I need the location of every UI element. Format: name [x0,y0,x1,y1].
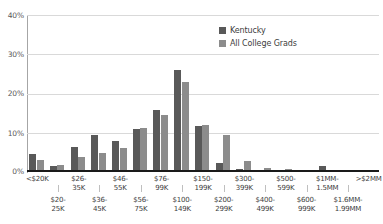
bar-all-college-grads [140,128,147,172]
bar-group [153,15,174,172]
bar-group [195,15,216,172]
x-axis-separator [348,185,349,192]
y-axis-tick: 10% [0,129,24,138]
x-axis-tick-label: $36- 45K [82,196,116,213]
bar-group [174,15,195,172]
legend: Kentucky All College Grads [219,25,297,49]
bars-layer [27,15,379,172]
bar-group [360,15,381,172]
x-axis-tick-label: $1MM- 1.5MM [310,175,344,192]
x-axis: <$20K$26- 35K$46- 55K$76- 99K$150- 199K$… [27,174,379,224]
x-axis-tick-label: $300- 399K [227,175,261,192]
x-axis-tick-label: $200- 299K [207,196,241,213]
bar-kentucky [195,126,202,172]
x-axis-separator [58,185,59,192]
x-axis-tick-label: $46- 55K [103,175,137,192]
x-axis-separator [307,185,308,192]
y-axis-tick: 40% [0,11,24,20]
x-axis-tick-label: $20- 25K [41,196,75,213]
x-axis-tick-label: >$2MM [352,175,383,184]
legend-swatch-icon [219,40,226,47]
x-axis-tick-label: $400- 499K [248,196,282,213]
x-axis-tick-label: $500- 599K [269,175,303,192]
bar-group [340,15,361,172]
legend-item-all-college-grads: All College Grads [219,38,297,49]
legend-swatch-icon [219,27,226,34]
x-axis-tick-label: <$20K [20,175,54,184]
y-axis: 40% 30% 20% 10% 0% [0,0,24,224]
bar-group [29,15,50,172]
bar-all-college-grads [161,115,168,172]
bar-group [319,15,340,172]
bar-kentucky [71,147,78,172]
x-axis-separator [224,185,225,192]
plot-area [27,15,379,172]
bar-group [133,15,154,172]
legend-item-kentucky: Kentucky [219,25,297,36]
bar-kentucky [112,141,119,172]
x-axis-tick-label: $56- 75K [124,196,158,213]
x-axis-tick-label: $600- 999K [290,196,324,213]
bar-all-college-grads [202,125,209,172]
x-axis-tick-label: $76- 99K [145,175,179,192]
legend-label: All College Grads [230,39,297,48]
x-axis-separator [141,185,142,192]
bar-all-college-grads [182,82,189,172]
bar-group [50,15,71,172]
bar-group [298,15,319,172]
bar-kentucky [174,70,181,172]
x-axis-separator [99,185,100,192]
x-axis-tick-label: $26- 35K [62,175,96,192]
bar-kentucky [153,110,160,172]
bar-group [91,15,112,172]
legend-label: Kentucky [230,26,266,35]
x-axis-tick-label: $1.6MM- 1.99MM [331,196,365,213]
x-axis-tick-label: $150- 199K [186,175,220,192]
bar-all-college-grads [223,135,230,172]
x-axis-separator [182,185,183,192]
bar-group [71,15,92,172]
x-axis-line [27,170,379,172]
bar-group [112,15,133,172]
x-axis-separator [265,185,266,192]
bar-chart: 40% 30% 20% 10% 0% Kentucky All College … [0,0,383,224]
bar-kentucky [133,129,140,172]
bar-all-college-grads [120,148,127,172]
y-axis-tick: 20% [0,89,24,98]
y-axis-tick: 30% [0,50,24,59]
x-axis-tick-label: $100- 149K [165,196,199,213]
bar-kentucky [91,135,98,172]
